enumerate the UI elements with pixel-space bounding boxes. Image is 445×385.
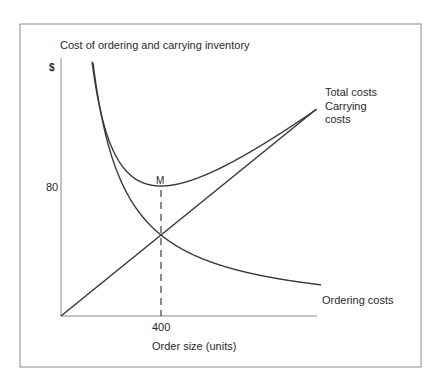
- y-tick-80: 80: [46, 181, 58, 193]
- chart-title: Cost of ordering and carrying inventory: [60, 39, 250, 51]
- x-tick-400: 400: [152, 321, 170, 333]
- carrying-costs-label-line2: costs: [325, 113, 351, 125]
- total-costs-label: Total costs: [325, 86, 377, 98]
- total-costs-curve: [92, 62, 317, 186]
- chart: Cost of ordering and carrying inventory …: [0, 0, 445, 385]
- ordering-costs-label: Ordering costs: [322, 294, 394, 306]
- carrying-costs-line: [61, 109, 317, 316]
- y-unit-label: $: [49, 62, 55, 73]
- carrying-costs-label-line1: Carrying: [325, 100, 367, 112]
- min-point-label: M: [156, 175, 164, 186]
- x-axis-label: Order size (units): [152, 340, 236, 352]
